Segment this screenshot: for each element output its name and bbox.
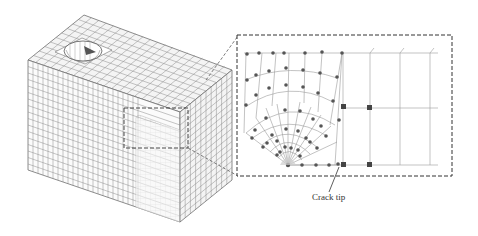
inset-detail <box>237 35 452 176</box>
fe-mesh-diagram <box>0 0 478 236</box>
crack-tip-label: Crack tip <box>312 192 345 202</box>
figure: Crack tip <box>0 0 478 236</box>
block-mesh <box>28 15 232 222</box>
